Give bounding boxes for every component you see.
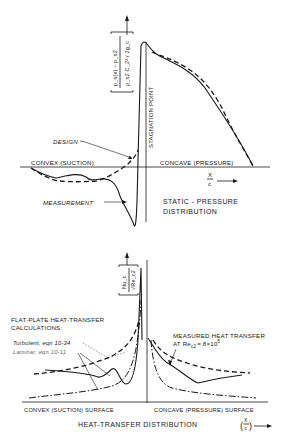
flat-plate-label-2: CALCULATIONS: [11,324,62,331]
svg-text:Nu_c: Nu_c [121,275,127,289]
top-y-arrow-head [125,15,129,21]
laminar-curve-right [151,340,256,398]
convex-surface-label: CONVEX (SUCTION) SURFACE [24,407,114,413]
static-pressure-title-1: STATIC - PRESSURE [163,198,238,205]
measured-label-2: AT Rec2= 8×105 [173,339,221,349]
measurement-label: MEASUREMENT [43,199,94,206]
static-pressure-title-2: DISTRIBUTION [163,208,217,215]
top-y-numerator: p_s(x) − p_s2 [112,50,118,86]
heat-transfer-plot: Nu_c √Re_c2 FLAT-PLATE HEAT-TRANSFER CAL… [11,252,272,431]
svg-text:): ) [249,421,252,431]
laminar-leader-1 [78,353,98,390]
bottom-y-arrow-head [125,252,129,258]
design-leader [80,141,132,158]
figure: p_s(x) − p_s2 ρ_s2 C_2² / 2g_c STAGNATIO… [0,0,291,444]
stagnation-point-label: STAGNATION POINT [148,87,154,148]
static-pressure-plot: p_s(x) − p_s2 ρ_s2 C_2² / 2g_c STAGNATIO… [20,15,270,226]
svg-text:c: c [208,180,211,187]
measured-label-1: MEASURED HEAT TRANSFER [173,332,265,339]
bottom-y-axis-label: Nu_c √Re_c2 [119,265,138,295]
design-label: DESIGN [53,138,78,145]
concave-pressure-label: CONCAVE (PRESSURE) [160,159,234,166]
top-y-denominator: ρ_s2 C_2² / 2g_c [124,41,130,86]
top-y-axis-label: p_s(x) − p_s2 ρ_s2 C_2² / 2g_c [111,32,133,92]
svg-text:X: X [208,171,212,178]
svg-text:(: ( [240,421,243,431]
svg-text:c: c [245,425,248,431]
design-pressure-curve-right [152,52,253,166]
top-x-over-c: X c [207,171,238,187]
svg-text:√Re_c2: √Re_c2 [130,270,136,290]
concave-surface-label: CONCAVE (PRESSURE) SURFACE [154,407,254,413]
turbulent-label: Turbulent, eqn 10-34 [13,340,70,346]
convex-suction-label: CONVEX (SUCTION) [31,159,94,166]
flat-plate-label-1: FLAT-PLATE HEAT-TRANSFER [11,316,104,323]
svg-text:X: X [244,417,248,423]
laminar-label: Laminar, eqn 10-11 [13,349,66,355]
heat-transfer-title: HEAT-TRANSFER DISTRIBUTION [78,421,198,428]
bottom-x-over-c: ( X c ) [240,417,272,431]
